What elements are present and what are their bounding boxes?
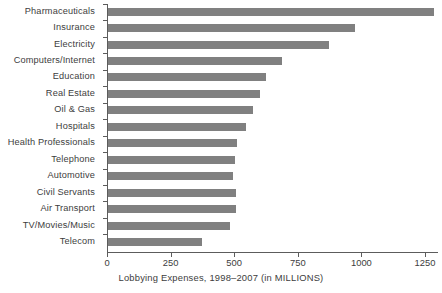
x-axis-tick-label: 250 xyxy=(163,258,179,267)
y-axis-tick xyxy=(103,119,107,120)
bar-row: Insurance xyxy=(0,20,442,35)
bar-row: Education xyxy=(0,70,442,85)
bar-row: Automotive xyxy=(0,169,442,184)
bar xyxy=(108,73,266,81)
x-axis-tick-label: 750 xyxy=(290,258,306,267)
category-label: Telephone xyxy=(51,155,95,164)
bar-row: Air Transport xyxy=(0,201,442,216)
category-label: Hospitals xyxy=(56,122,95,131)
x-axis-title: Lobbying Expenses, 1998–2007 (in MILLION… xyxy=(0,272,442,283)
bar xyxy=(108,57,282,65)
bar-row: TV/Movies/Music xyxy=(0,218,442,233)
bar-row: Health Professionals xyxy=(0,136,442,151)
x-axis-tick-label: 1250 xyxy=(415,258,436,267)
bar xyxy=(108,139,237,147)
bar xyxy=(108,222,230,230)
category-label: Computers/Internet xyxy=(14,56,95,65)
bar-row: Hospitals xyxy=(0,119,442,134)
y-axis-tick xyxy=(103,37,107,38)
x-axis-tick-label: 1000 xyxy=(351,258,372,267)
y-axis-tick xyxy=(103,20,107,21)
lobbying-expenses-bar-chart: PharmaceuticalsInsuranceElectricityCompu… xyxy=(0,0,442,293)
bar xyxy=(108,189,236,197)
x-axis-tick-label: 500 xyxy=(226,258,242,267)
category-label: Civil Servants xyxy=(37,188,95,197)
category-label: Automotive xyxy=(48,172,95,181)
bar xyxy=(108,8,434,16)
y-axis-tick xyxy=(103,4,107,5)
y-axis-tick xyxy=(103,201,107,202)
category-label: Air Transport xyxy=(40,204,95,213)
category-label: Electricity xyxy=(54,40,95,49)
y-axis-tick xyxy=(103,53,107,54)
y-axis-tick xyxy=(103,152,107,153)
x-axis-ticks: 025050075010001250 xyxy=(0,252,442,272)
y-axis-tick xyxy=(103,103,107,104)
y-axis-tick xyxy=(103,70,107,71)
bar-row: Civil Servants xyxy=(0,185,442,200)
y-axis-tick xyxy=(103,169,107,170)
y-axis-tick xyxy=(103,86,107,87)
y-axis-tick xyxy=(103,218,107,219)
bar xyxy=(108,24,355,32)
x-axis-tick-label: 0 xyxy=(104,258,109,267)
y-axis-tick xyxy=(103,136,107,137)
category-label: Health Professionals xyxy=(8,139,95,148)
bar-row: Computers/Internet xyxy=(0,53,442,68)
bar-row: Electricity xyxy=(0,37,442,52)
bar xyxy=(108,41,329,49)
category-label: Education xyxy=(53,73,95,82)
bar-row: Telephone xyxy=(0,152,442,167)
bar xyxy=(108,156,235,164)
bar-row: Telecom xyxy=(0,234,442,249)
bar-row: Oil & Gas xyxy=(0,103,442,118)
category-label: Insurance xyxy=(53,24,95,33)
bar xyxy=(108,106,253,114)
bar xyxy=(108,238,202,246)
bar xyxy=(108,205,236,213)
y-axis-tick xyxy=(103,234,107,235)
category-label: Real Estate xyxy=(46,89,95,98)
bar xyxy=(108,123,246,131)
category-label: Pharmaceuticals xyxy=(25,7,95,16)
category-label: Telecom xyxy=(60,237,95,246)
bar xyxy=(108,172,233,180)
bar-rows: PharmaceuticalsInsuranceElectricityCompu… xyxy=(0,0,442,249)
bar-row: Pharmaceuticals xyxy=(0,4,442,19)
category-label: Oil & Gas xyxy=(54,106,95,115)
bar-row: Real Estate xyxy=(0,86,442,101)
category-label: TV/Movies/Music xyxy=(23,221,95,230)
bar xyxy=(108,90,260,98)
y-axis-tick xyxy=(103,185,107,186)
